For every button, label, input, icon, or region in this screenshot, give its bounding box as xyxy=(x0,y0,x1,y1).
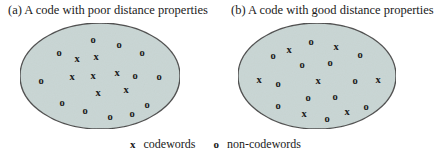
codeword-marker: x xyxy=(114,67,120,78)
legend-item-codewords: x codewords xyxy=(130,137,195,152)
non-codeword-marker: o xyxy=(357,49,362,60)
non-codeword-marker: o xyxy=(327,57,332,68)
non-codeword-marker: o xyxy=(107,111,112,122)
non-codeword-marker: o xyxy=(129,108,134,119)
non-codeword-marker: o xyxy=(332,91,337,102)
non-codeword-marker: o xyxy=(132,70,137,81)
codeword-marker: x xyxy=(69,71,75,82)
o-marker-icon: o xyxy=(214,138,220,150)
legend: x codewords o non-codewords xyxy=(0,137,417,152)
codeword-marker: x xyxy=(315,75,321,86)
legend-label: non-codewords xyxy=(227,137,301,152)
codeword-marker: x xyxy=(333,41,339,52)
non-codeword-marker: o xyxy=(59,97,64,108)
non-codeword-marker: o xyxy=(270,50,275,61)
codeword-marker: x xyxy=(74,53,80,64)
non-codeword-marker: o xyxy=(144,99,149,110)
non-codeword-marker: o xyxy=(56,47,61,58)
non-codeword-marker: o xyxy=(90,34,95,45)
codeword-marker: x xyxy=(90,70,96,81)
non-codeword-marker: o xyxy=(299,59,304,70)
legend-label: codewords xyxy=(144,137,196,152)
codeword-marker: x xyxy=(344,106,350,117)
non-codeword-marker: o xyxy=(156,71,161,82)
non-codeword-marker: o xyxy=(139,47,144,58)
non-codeword-marker: o xyxy=(275,78,280,89)
codeword-marker: x xyxy=(123,84,129,95)
non-codeword-marker: o xyxy=(38,75,43,86)
non-codeword-marker: o xyxy=(324,113,329,124)
codeword-marker: x xyxy=(301,108,307,119)
non-codeword-marker: o xyxy=(363,101,368,112)
codeword-marker: x xyxy=(375,74,381,85)
x-marker-icon: x xyxy=(130,138,136,150)
non-codeword-marker: o xyxy=(352,75,357,86)
panel-b-code-space: oxxooooxoxoxooooxxo xyxy=(238,23,396,129)
non-codeword-marker: o xyxy=(275,100,280,111)
codeword-marker: x xyxy=(95,87,101,98)
non-codeword-marker: o xyxy=(308,36,313,47)
codeword-marker: x xyxy=(286,44,292,55)
legend-item-non-codewords: o non-codewords xyxy=(214,137,301,152)
non-codeword-marker: o xyxy=(305,92,310,103)
panel-a-code-space: ooooxxoxxxooxxooooo xyxy=(20,23,180,129)
non-codeword-marker: o xyxy=(116,39,121,50)
non-codeword-marker: o xyxy=(82,105,87,116)
codeword-marker: x xyxy=(256,74,262,85)
codeword-marker: x xyxy=(93,51,99,62)
